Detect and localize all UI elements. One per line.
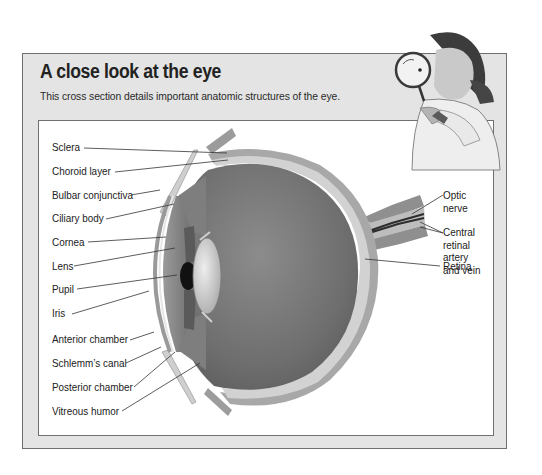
label-line: retinal bbox=[443, 239, 480, 252]
label-ciliary-body: Ciliary body bbox=[52, 212, 104, 225]
label-pupil: Pupil bbox=[52, 283, 74, 296]
label-line: Retina bbox=[443, 260, 472, 273]
label-choroid-layer: Choroid layer bbox=[52, 165, 111, 178]
label-optic-nerve: Optic nerve bbox=[443, 189, 468, 214]
label-sclera: Sclera bbox=[52, 141, 80, 154]
label-posterior-chamber: Posterior chamber bbox=[52, 381, 133, 394]
label-retina: Retina bbox=[443, 260, 472, 273]
label-vitreous-humor: Vitreous humor bbox=[52, 405, 119, 418]
label-iris: Iris bbox=[52, 307, 65, 320]
label-anterior-chamber: Anterior chamber bbox=[52, 333, 128, 346]
label-line: nerve bbox=[443, 202, 468, 215]
label-lens: Lens bbox=[52, 260, 73, 273]
label-line: Central bbox=[443, 226, 480, 239]
label-schlemms-canal: Schlemm’s canal bbox=[52, 357, 127, 370]
label-cornea: Cornea bbox=[52, 236, 84, 249]
label-bulbar-conjunctiva: Bulbar conjunctiva bbox=[52, 189, 133, 202]
label-line: Optic bbox=[443, 189, 468, 202]
magnifier-woman-illustration bbox=[396, 32, 500, 170]
